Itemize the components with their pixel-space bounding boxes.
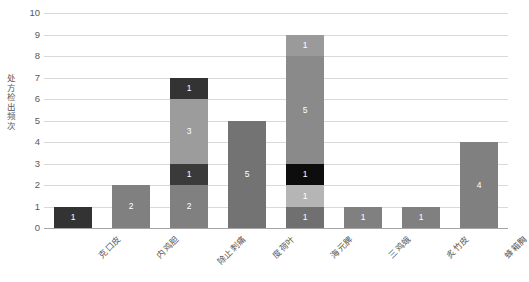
- bar-segment[interactable]: 1: [402, 207, 440, 229]
- y-axis-tick-label: 7: [4, 72, 40, 83]
- bar-column[interactable]: 2131: [170, 78, 208, 229]
- bar-value-label: 1: [361, 213, 366, 222]
- bar-series: 122131511151114: [44, 13, 508, 228]
- x-axis-labels: 克口皮内鸡胆除止刺痛度荷叶海元脾三鸡蛾炙竹皮蜂箱胸: [44, 230, 508, 282]
- y-axis-tick-label: 4: [4, 136, 40, 147]
- x-axis-tick-label: 除止刺痛: [214, 232, 249, 267]
- bar-column[interactable]: 5: [228, 121, 266, 229]
- bar-value-label: 5: [245, 170, 250, 179]
- bar-segment[interactable]: 1: [286, 185, 324, 207]
- y-axis-tick-label: 5: [4, 115, 40, 126]
- x-axis-tick-label: 蜂箱胸: [501, 232, 529, 260]
- bar-segment[interactable]: 4: [460, 142, 498, 228]
- bar-value-label: 4: [477, 181, 482, 190]
- x-axis-tick-label: 克口皮: [95, 232, 123, 260]
- bar-value-label: 1: [187, 170, 192, 179]
- bar-segment[interactable]: 2: [170, 185, 208, 228]
- bar-segment[interactable]: 5: [286, 56, 324, 164]
- plot-area: 012345678910 122131511151114: [44, 13, 508, 228]
- bar-value-label: 1: [303, 170, 308, 179]
- x-axis-tick-label: 内鸡胆: [153, 232, 181, 260]
- bar-value-label: 1: [187, 84, 192, 93]
- bar-segment[interactable]: 5: [228, 121, 266, 229]
- bar-column[interactable]: 4: [460, 142, 498, 228]
- bar-segment[interactable]: 1: [170, 164, 208, 186]
- bar-value-label: 3: [187, 127, 192, 136]
- y-axis-tick-label: 6: [4, 93, 40, 104]
- bar-column[interactable]: 1: [344, 207, 382, 229]
- y-axis-tick-label: 1: [4, 201, 40, 212]
- bar-column[interactable]: 11151: [286, 35, 324, 229]
- bar-value-label: 1: [303, 41, 308, 50]
- bar-segment[interactable]: 3: [170, 99, 208, 164]
- x-axis-tick-label: 度荷叶: [269, 232, 297, 260]
- bar-value-label: 1: [71, 213, 76, 222]
- x-axis-tick-label: 海元脾: [327, 232, 355, 260]
- bar-value-label: 1: [303, 192, 308, 201]
- x-axis-line: [44, 228, 508, 229]
- bar-segment[interactable]: 1: [54, 207, 92, 229]
- y-axis-tick-label: 2: [4, 179, 40, 190]
- bar-value-label: 2: [129, 202, 134, 211]
- bar-segment[interactable]: 2: [112, 185, 150, 228]
- bar-segment[interactable]: 1: [286, 164, 324, 186]
- bar-segment[interactable]: 1: [286, 35, 324, 57]
- bar-segment[interactable]: 1: [344, 207, 382, 229]
- bar-column[interactable]: 2: [112, 185, 150, 228]
- bar-value-label: 1: [419, 213, 424, 222]
- bar-value-label: 5: [303, 106, 308, 115]
- bar-column[interactable]: 1: [402, 207, 440, 229]
- y-axis-tick-label: 8: [4, 50, 40, 61]
- y-axis-tick-label: 9: [4, 29, 40, 40]
- y-axis-tick-label: 10: [4, 7, 40, 18]
- y-axis-tick-label: 3: [4, 158, 40, 169]
- x-axis-tick-label: 三鸡蛾: [385, 232, 413, 260]
- bar-value-label: 2: [187, 202, 192, 211]
- x-axis-tick-label: 炙竹皮: [443, 232, 471, 260]
- bar-value-label: 1: [303, 213, 308, 222]
- bar-segment[interactable]: 1: [286, 207, 324, 229]
- y-axis-tick-label: 0: [4, 222, 40, 233]
- bar-segment[interactable]: 1: [170, 78, 208, 100]
- bar-column[interactable]: 1: [54, 207, 92, 229]
